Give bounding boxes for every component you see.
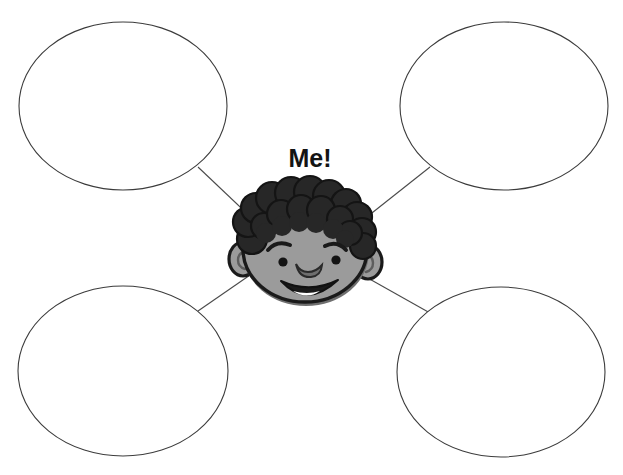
center-title: Me! [255,146,365,171]
connector-bottom-right [366,277,430,313]
connector-bottom-left [198,273,253,311]
bubble-top-left[interactable] [19,22,227,190]
bubble-bottom-left[interactable] [18,286,228,456]
left-eye-icon [278,257,287,266]
boy-face-illustration [229,176,382,306]
bubble-bottom-right[interactable] [397,287,605,457]
right-eye-icon [331,255,340,264]
bubble-top-right[interactable] [400,22,608,190]
worksheet-canvas [0,0,623,475]
me-graphic-organizer-worksheet: Me! [0,0,623,475]
